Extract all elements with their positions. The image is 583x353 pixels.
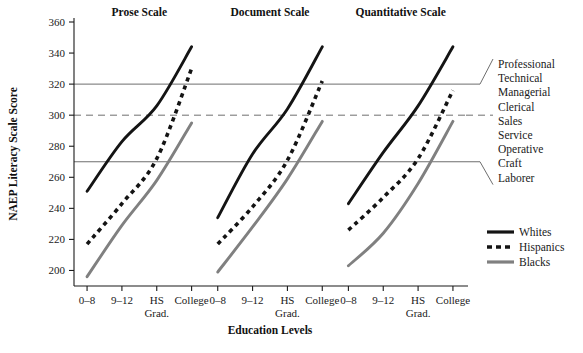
- x-tick-label: HS: [411, 294, 425, 306]
- legend-label-hispanics: Hispanics: [519, 241, 565, 254]
- y-axis-title: NAEP Literacy Scale Score: [7, 87, 20, 221]
- x-axis-title: Education Levels: [228, 324, 313, 336]
- x-tick-label-line2: Grad.: [144, 307, 169, 319]
- occupation-label: Operative: [498, 143, 543, 156]
- occupation-label: Craft: [498, 157, 522, 169]
- y-tick-label: 360: [49, 16, 66, 28]
- series-line-hispanics: [87, 69, 192, 244]
- y-tick-label: 300: [49, 109, 66, 121]
- legend-label-whites: Whites: [519, 226, 552, 238]
- x-tick-label: HS: [150, 294, 164, 306]
- series-line-blacks: [218, 121, 323, 272]
- occupation-label: Laborer: [498, 172, 535, 184]
- x-tick-label-line2: Grad.: [275, 307, 300, 319]
- leader-line-lower: [466, 162, 493, 185]
- y-tick-label: 320: [49, 78, 66, 90]
- occupation-label: Service: [498, 129, 532, 141]
- x-tick-label: 0–8: [340, 294, 357, 306]
- series-line-whites: [218, 47, 323, 218]
- x-tick-label: 9–12: [372, 294, 394, 306]
- series-line-hispanics: [218, 81, 323, 244]
- x-tick-label: College: [436, 294, 470, 306]
- naep-literacy-chart: 200220240260280300320340360NAEP Literacy…: [0, 0, 583, 353]
- y-tick-label: 260: [49, 171, 66, 183]
- legend-label-blacks: Blacks: [519, 256, 551, 268]
- occupation-label: Technical: [498, 72, 543, 84]
- series-line-blacks: [87, 123, 192, 277]
- occupation-label: Managerial: [498, 86, 550, 99]
- occupation-label: Professional: [498, 58, 555, 70]
- leader-line-upper: [466, 59, 493, 84]
- y-tick-label: 240: [49, 202, 66, 214]
- chart-canvas: 200220240260280300320340360NAEP Literacy…: [0, 0, 583, 353]
- x-tick-label: College: [174, 294, 208, 306]
- x-tick-label: 9–12: [242, 294, 264, 306]
- y-tick-label: 220: [49, 233, 66, 245]
- series-line-whites: [87, 47, 192, 191]
- x-tick-label: 0–8: [209, 294, 226, 306]
- y-tick-label: 340: [49, 47, 66, 59]
- occupation-label: Sales: [498, 115, 523, 127]
- x-tick-label: College: [305, 294, 339, 306]
- y-tick-label: 200: [49, 264, 66, 276]
- series-line-blacks: [348, 121, 453, 265]
- x-tick-label: HS: [280, 294, 294, 306]
- occupation-label: Clerical: [498, 101, 534, 113]
- x-tick-label: 0–8: [79, 294, 96, 306]
- x-tick-label-line2: Grad.: [406, 307, 431, 319]
- panel-title: Prose Scale: [111, 6, 167, 18]
- x-tick-label: 9–12: [111, 294, 133, 306]
- panel-title: Quantitative Scale: [355, 6, 445, 18]
- y-tick-label: 280: [49, 140, 66, 152]
- panel-title: Document Scale: [231, 6, 310, 18]
